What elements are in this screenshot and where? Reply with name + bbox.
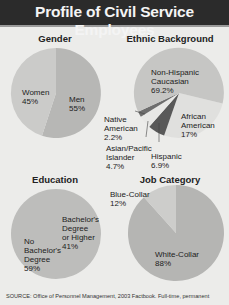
asian-pacific-islander-label: Asian/PacificIslander4.7% <box>106 144 152 171</box>
gender-title: Gender <box>38 33 71 44</box>
no-bachelors-label: NoBachelor'sDegree59% <box>24 237 61 273</box>
caucasian-label: Non-HispanicCaucasian69.2% <box>151 68 199 95</box>
header-bar: Profile of Civil Service Employees <box>0 0 229 27</box>
african-american-label: AfricanAmerican17% <box>181 112 215 139</box>
education-title: Education <box>32 174 78 185</box>
ethnic-title: Ethnic Background <box>126 33 213 44</box>
women-label: Women45% <box>22 88 49 106</box>
blue-collar-label: Blue-Collar12% <box>110 190 150 208</box>
bachelors-label: Bachelor'sDegreeor Higher41% <box>62 215 99 251</box>
hispanic-label: Hispanic6.9% <box>151 152 182 170</box>
men-label: Men55% <box>69 95 85 113</box>
native-american-label: NativeAmerican2.2% <box>104 115 138 142</box>
source-note: SOURCE: Office of Personnel Management, … <box>6 293 209 299</box>
white-collar-label: White-Collar88% <box>155 250 199 268</box>
